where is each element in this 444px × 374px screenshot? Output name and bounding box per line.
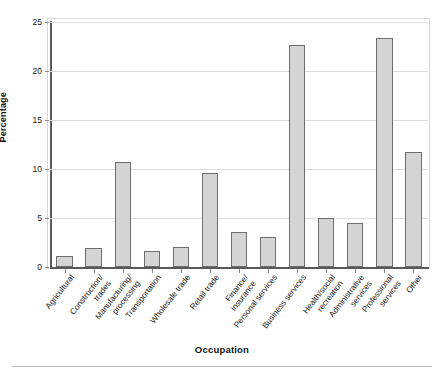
x-tick-mark <box>65 269 66 273</box>
bar <box>347 223 363 267</box>
bar <box>173 247 189 267</box>
x-tick-mark <box>152 269 153 273</box>
bar <box>318 218 334 267</box>
x-tick-mark <box>326 269 327 273</box>
x-tick-mark <box>94 269 95 273</box>
y-tick-label: 0 <box>37 263 42 272</box>
x-tick-mark <box>239 269 240 273</box>
y-tick-mark <box>45 169 49 170</box>
x-tick-mark <box>123 269 124 273</box>
y-tick-mark <box>45 218 49 219</box>
y-tick-label: 10 <box>33 165 42 174</box>
y-tick-label: 25 <box>33 18 42 27</box>
x-tick-mark <box>355 269 356 273</box>
y-tick-label: 15 <box>33 116 42 125</box>
footer-divider <box>12 366 432 367</box>
y-tick-mark <box>45 120 49 121</box>
bar <box>260 237 276 267</box>
bar <box>144 251 160 267</box>
x-tick-mark <box>181 269 182 273</box>
x-tick-mark <box>384 269 385 273</box>
bar <box>376 38 392 267</box>
x-tick-mark <box>297 269 298 273</box>
y-tick-label: 20 <box>33 67 42 76</box>
x-axis-title: Occupation <box>0 344 444 355</box>
bar <box>56 256 72 267</box>
x-axis-labels: AgriculturalConstruction/ tradesManufact… <box>50 273 430 348</box>
y-tick-mark <box>45 267 49 268</box>
x-tick-mark <box>268 269 269 273</box>
y-tick-mark <box>45 71 49 72</box>
bar <box>405 152 421 267</box>
plot-area: 0510152025 <box>50 22 428 267</box>
x-tick-mark <box>210 269 211 273</box>
y-tick-label: 5 <box>37 214 42 223</box>
bar <box>289 45 305 267</box>
bars-layer <box>50 22 428 267</box>
bar-chart-figure: Percentage 0510152025 AgriculturalConstr… <box>0 0 444 374</box>
bar <box>231 232 247 267</box>
y-tick-mark <box>45 22 49 23</box>
x-tick-mark <box>413 269 414 273</box>
bar <box>115 162 131 267</box>
bar <box>85 248 101 267</box>
bar <box>202 173 218 267</box>
y-axis-title: Percentage <box>0 92 8 143</box>
